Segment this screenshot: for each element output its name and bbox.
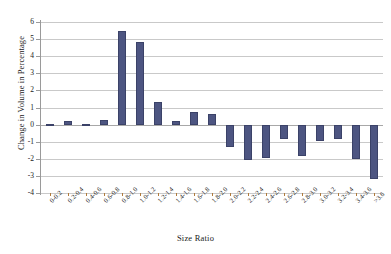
- bar: [100, 120, 107, 124]
- bar: [226, 125, 233, 147]
- y-tick-label: -3: [12, 172, 34, 180]
- gridline-5: [41, 39, 383, 40]
- y-tick-label: 2: [12, 86, 34, 94]
- y-tick-label: 4: [12, 52, 34, 60]
- gridline-4: [41, 56, 383, 57]
- y-tick-label: 5: [12, 35, 34, 43]
- bar: [208, 114, 215, 125]
- gridline--3: [41, 176, 383, 177]
- bar: [370, 125, 377, 180]
- gridline-6: [41, 22, 383, 23]
- gridline-3: [41, 73, 383, 74]
- y-tick-label: 0: [12, 121, 34, 129]
- bar: [298, 125, 305, 157]
- bar: [46, 124, 53, 126]
- bar: [136, 42, 143, 125]
- bar-chart: Change in Volume in Percentage 6543210-1…: [0, 0, 391, 254]
- bar: [64, 121, 71, 125]
- gridline--2: [41, 159, 383, 160]
- y-tick-label: 3: [12, 69, 34, 77]
- bar: [172, 121, 179, 124]
- y-tick-label: -2: [12, 155, 34, 163]
- bar: [334, 125, 341, 140]
- bar: [118, 31, 125, 125]
- bar: [244, 125, 251, 160]
- y-tick-label: 1: [12, 104, 34, 112]
- y-tick-label: -4: [12, 189, 34, 197]
- x-axis-title: Size Ratio: [0, 233, 391, 243]
- gridline-1: [41, 108, 383, 109]
- bar: [190, 112, 197, 124]
- plot-area: [41, 22, 383, 193]
- bar: [154, 102, 161, 125]
- bar: [316, 125, 323, 141]
- gridline-2: [41, 90, 383, 91]
- bar: [82, 124, 89, 126]
- gridline-0: [41, 125, 383, 126]
- gridline--1: [41, 142, 383, 143]
- y-tick-label: 6: [12, 18, 34, 26]
- bar: [280, 125, 287, 140]
- y-tick-label: -1: [12, 138, 34, 146]
- bar: [262, 125, 269, 158]
- bar: [352, 125, 359, 159]
